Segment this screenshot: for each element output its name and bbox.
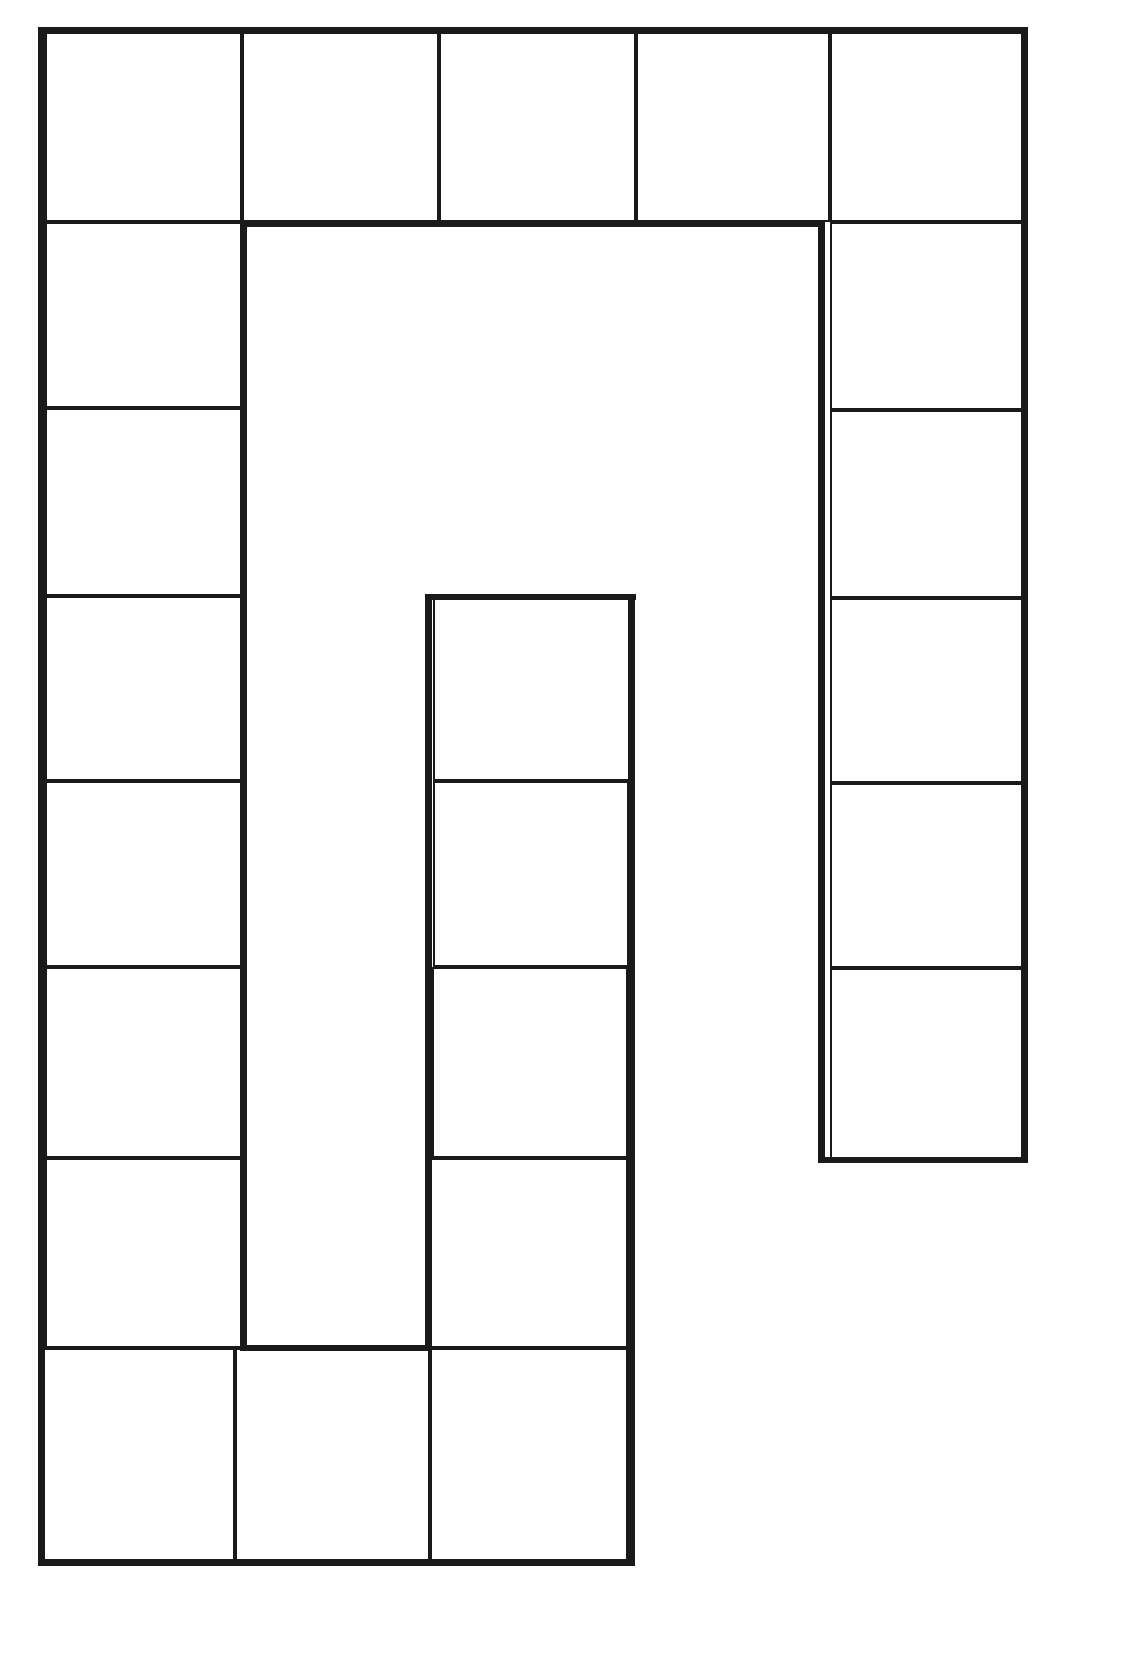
board-square-15[interactable] [45, 967, 242, 1158]
board-square-10[interactable] [830, 968, 1026, 1160]
board-square-9[interactable] [830, 783, 1026, 968]
board-square-14[interactable] [45, 781, 242, 967]
board-square-23[interactable] [433, 596, 633, 781]
track-border-line [38, 27, 45, 1565]
board-square-2[interactable] [242, 30, 439, 222]
track-border-line [429, 594, 636, 600]
board-square-3[interactable] [439, 30, 636, 222]
board-square-4[interactable] [636, 30, 830, 222]
board-square-6[interactable] [830, 222, 1026, 410]
board-square-8[interactable] [830, 598, 1026, 783]
board-square-19[interactable] [430, 1348, 628, 1563]
board-square-12[interactable] [45, 408, 242, 596]
board-square-5[interactable] [830, 30, 1026, 222]
board-square-1[interactable] [45, 30, 242, 222]
track-border-line [38, 1559, 635, 1566]
board-square-20[interactable] [430, 1158, 628, 1348]
board-square-18[interactable] [235, 1348, 430, 1563]
track-border-line [240, 1345, 430, 1351]
track-border-line [43, 27, 1028, 34]
board-square-22[interactable] [433, 781, 629, 967]
track-border-line [818, 1157, 1028, 1163]
track-border-line [1021, 27, 1028, 1163]
track-border-line [240, 220, 247, 1350]
board-square-7[interactable] [830, 410, 1026, 598]
track-border-line [425, 594, 432, 1350]
track-border-line [240, 220, 825, 227]
board-square-21[interactable] [432, 967, 628, 1158]
track-border-line [818, 222, 825, 1162]
board-square-11[interactable] [45, 222, 242, 408]
game-board [0, 0, 1129, 1657]
board-square-17[interactable] [40, 1348, 235, 1563]
track-border-line [628, 594, 635, 1564]
board-square-13[interactable] [45, 596, 242, 781]
board-square-16[interactable] [45, 1158, 242, 1348]
